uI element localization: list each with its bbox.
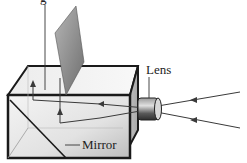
camera-diagram xyxy=(0,0,247,163)
mirror-label: Mirror xyxy=(82,138,117,151)
top-label-partial: g xyxy=(40,0,47,4)
lens xyxy=(138,98,162,120)
lens-label: Lens xyxy=(146,63,171,76)
